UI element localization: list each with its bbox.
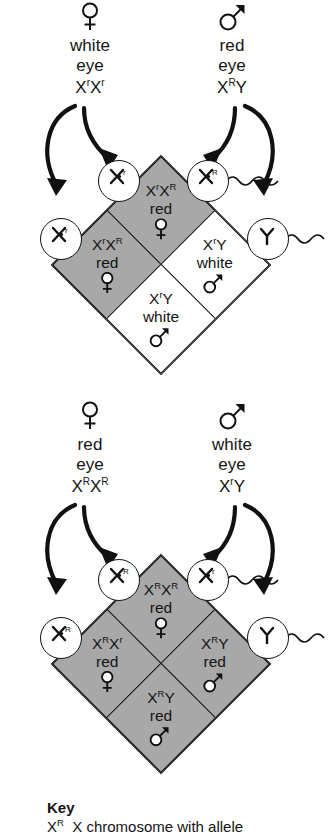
cross-1-male-parent: red eye XRY [172,2,292,98]
cell-phenotype: red [113,599,209,616]
venus-symbol-icon [30,2,150,36]
chromosome-icon: R [195,166,221,196]
male-genotype: XrY [172,476,292,497]
chromosome-icon: r [106,166,132,196]
female-genotype: XrXr [30,77,150,98]
male-phenotype-line1: red [172,36,292,56]
cell-phenotype: red [113,200,209,217]
cross-2-sperm-right [247,617,289,659]
cross-2-egg-left: R [40,617,82,659]
male-phenotype-line2: eye [172,56,292,76]
y-chromosome-icon [255,623,281,653]
cross-2-sperm-top-right: r [187,559,229,601]
cross-1-sperm-tail-top-right [224,170,286,192]
cross-1-sperm-tail-right [283,228,328,250]
svg-text:R: R [212,168,218,177]
cross-2-diagram: red eye XRXR white eye XrY R [0,399,322,799]
cell-genotype: XrY [113,290,209,308]
cross-2-male-parent: white eye XrY [172,401,292,497]
cross-1-sperm-right [247,218,289,260]
chromosome-icon: r [195,565,221,595]
svg-text:r: r [123,168,126,177]
female-phenotype-line1: red [30,435,150,455]
cross-1-egg-top-left: r [98,160,140,202]
chromosome-icon: r [48,224,74,254]
male-genotype: XRY [172,77,292,98]
male-phenotype-line2: eye [172,455,292,475]
mars-symbol-icon [113,326,209,348]
chromosome-icon: R [48,623,74,653]
svg-text:r: r [65,226,68,235]
cross-1-sperm-top-right: R [187,160,229,202]
key-title: Key [47,800,317,816]
svg-text:R: R [65,625,71,634]
cross-2-egg-top-left: R [98,559,140,601]
svg-text:r: r [212,567,215,576]
cross-1-female-parent: white eye XrXr [30,2,150,98]
chromosome-icon: R [106,565,132,595]
cell-genotype: XRY [113,689,209,707]
cell-phenotype: red [113,706,209,723]
key-entry-0: XR X chromosome with allele [47,818,317,835]
venus-symbol-icon [30,401,150,435]
y-chromosome-icon [255,224,281,254]
mars-symbol-icon [172,2,292,36]
female-phenotype-line2: eye [30,455,150,475]
cross-2-female-parent: red eye XRXR [30,401,150,497]
female-phenotype-line2: eye [30,56,150,76]
cell-phenotype: white [167,254,263,271]
female-genotype: XRXR [30,476,150,497]
cell-phenotype: red [59,653,155,670]
cross-1-egg-left: r [40,218,82,260]
cell-phenotype: red [167,653,263,670]
male-phenotype-line1: white [172,435,292,455]
cross-2-sperm-tail-top-right [224,569,286,591]
mars-symbol-icon [172,401,292,435]
cross-1-diagram: white eye XrXr red eye XRY r [0,0,322,400]
cell-phenotype: white [113,307,209,324]
female-phenotype-line1: white [30,36,150,56]
cell-phenotype: red [59,254,155,271]
mars-symbol-icon [113,725,209,747]
key-section: Key XR X chromosome with allele [47,800,317,835]
svg-text:R: R [123,567,129,576]
cross-2-sperm-tail-right [283,627,328,649]
